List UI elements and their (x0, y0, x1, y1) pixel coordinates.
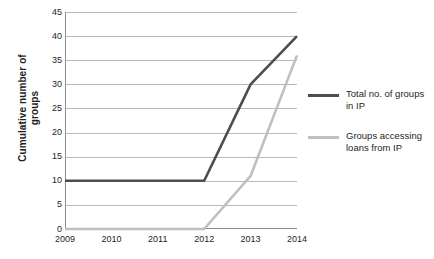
legend-label-total-groups-line-1: Total no. of groups (346, 88, 424, 99)
series-line-0 (65, 36, 297, 181)
y-tick-label: 20 (42, 128, 62, 137)
y-axis-title-line-1: Cumulative number of (17, 54, 29, 162)
x-tick-label: 2011 (138, 234, 178, 244)
y-tick-label: 0 (42, 225, 62, 234)
y-tick-label: 35 (42, 56, 62, 65)
legend-label-total-groups: Total no. of groups in IP (346, 88, 424, 112)
y-tick-label: 40 (42, 32, 62, 41)
y-tick-label: 5 (42, 200, 62, 209)
legend: Total no. of groups in IP Groups accessi… (308, 88, 434, 172)
x-tick-label: 2013 (231, 234, 271, 244)
x-tick-label: 2010 (91, 234, 131, 244)
legend-label-groups-accessing-loans: Groups accessing loans from IP (346, 130, 422, 154)
legend-label-groups-accessing-loans-line-1: Groups accessing (346, 130, 422, 141)
y-tick-label: 45 (42, 8, 62, 17)
x-tick-label: 2014 (277, 234, 317, 244)
legend-label-total-groups-line-2: in IP (346, 100, 365, 111)
y-tick-label: 25 (42, 104, 62, 113)
y-tick-label: 15 (42, 152, 62, 161)
x-tick-label: 2012 (184, 234, 224, 244)
x-axis-tick-labels: 200920102011201220132014 (65, 234, 297, 248)
legend-swatch-groups-accessing-loans (308, 136, 339, 139)
series-line-1 (65, 55, 297, 229)
legend-label-groups-accessing-loans-line-2: loans from IP (346, 142, 402, 153)
plot-area (65, 12, 297, 229)
line-chart-figure: Cumulative number of groups 454035302520… (0, 0, 434, 259)
y-tick-label: 30 (42, 80, 62, 89)
legend-entry-groups-accessing-loans: Groups accessing loans from IP (308, 130, 434, 154)
x-tick-label: 2009 (45, 234, 85, 244)
y-tick-label: 10 (42, 176, 62, 185)
legend-swatch-total-groups (308, 94, 339, 97)
legend-entry-total-groups: Total no. of groups in IP (308, 88, 434, 112)
y-axis-tick-labels: 454035302520151050 (38, 0, 62, 259)
series-lines (65, 12, 297, 229)
